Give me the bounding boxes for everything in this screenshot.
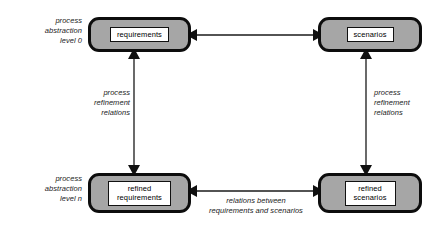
node-requirements[interactable]: requirements bbox=[88, 17, 191, 52]
node-refined-scenarios-label: refined scenarios bbox=[345, 181, 396, 206]
node-scenarios[interactable]: scenarios bbox=[318, 17, 422, 52]
diagram-canvas: requirements scenarios refined requireme… bbox=[0, 0, 431, 232]
connector-scenarios-refined-scenarios bbox=[356, 48, 376, 176]
node-refined-scenarios[interactable]: refined scenarios bbox=[318, 173, 422, 213]
annotation-abstraction-level-n: process abstraction level n bbox=[8, 174, 82, 204]
connector-requirements-scenarios bbox=[186, 26, 324, 46]
node-requirements-label: requirements bbox=[110, 27, 169, 43]
node-refined-requirements-label: refined requirements bbox=[108, 181, 171, 206]
annotation-abstraction-level-0: process abstraction level 0 bbox=[8, 16, 82, 46]
annotation-process-refinement-right: process refinement relations bbox=[374, 88, 430, 118]
node-refined-requirements[interactable]: refined requirements bbox=[88, 173, 191, 213]
annotation-relations-between: relations between requirements and scena… bbox=[186, 196, 326, 216]
node-scenarios-label: scenarios bbox=[347, 27, 394, 43]
annotation-process-refinement-left: process refinement relations bbox=[56, 88, 130, 118]
